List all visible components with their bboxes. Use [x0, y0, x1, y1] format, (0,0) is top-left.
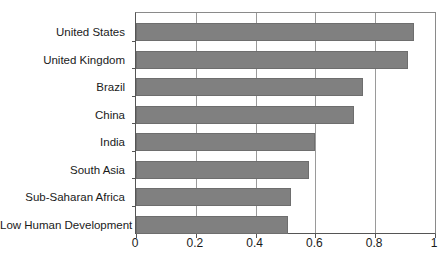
- x-axis-label: 0.4: [246, 236, 263, 250]
- x-axis-label: 1: [431, 236, 438, 250]
- y-axis-label: China: [0, 109, 125, 121]
- bar-united-states: [136, 23, 414, 41]
- bar-united-kingdom: [136, 51, 408, 69]
- bar-chart: United States United Kingdom Brazil Chin…: [0, 0, 444, 269]
- bar-brazil: [136, 78, 363, 96]
- y-axis-label: Brazil: [0, 81, 125, 93]
- y-axis-label: India: [0, 136, 125, 148]
- x-axis-label: 0.6: [306, 236, 323, 250]
- x-axis-label: 0.2: [186, 236, 203, 250]
- bar-low-human-development: [136, 216, 288, 234]
- x-axis-label: 0: [132, 236, 139, 250]
- bar-sub-saharan-africa: [136, 188, 291, 206]
- bar-south-asia: [136, 161, 309, 179]
- x-axis-label: 0.8: [366, 236, 383, 250]
- bar-china: [136, 106, 354, 124]
- y-axis-label: South Asia: [0, 164, 125, 176]
- bar-india: [136, 133, 315, 151]
- y-axis-label: United States: [0, 26, 125, 38]
- y-axis-label: United Kingdom: [0, 54, 125, 66]
- x-axis-labels: 0 0.2 0.4 0.6 0.8 1: [135, 236, 436, 252]
- y-axis-labels: United States United Kingdom Brazil Chin…: [0, 12, 131, 232]
- y-axis-label: Low Human Development: [0, 219, 125, 231]
- gridline-0.8: [375, 13, 376, 233]
- plot-area: [135, 12, 436, 234]
- y-axis-label: Sub-Saharan Africa: [0, 191, 125, 203]
